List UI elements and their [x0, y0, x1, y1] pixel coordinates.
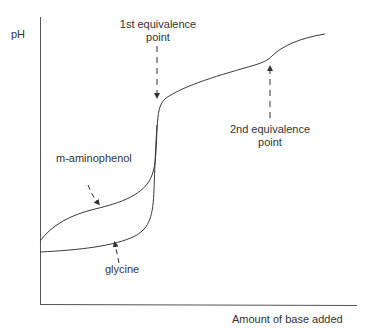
curve-upper-shared — [157, 34, 325, 130]
x-axis-label: Amount of base added — [232, 313, 343, 326]
glycine-arrow — [115, 244, 119, 263]
series-label-glycine: glycine — [105, 263, 139, 276]
titration-chart — [0, 0, 371, 330]
series-label-m-aminophenol: m-aminophenol — [56, 152, 132, 165]
m-aminophenol-arrow — [88, 185, 98, 203]
eq2-label: 2nd equivalence point — [228, 123, 312, 149]
curve-m-aminophenol — [40, 130, 157, 241]
eq1-label: 1st equivalence point — [118, 18, 198, 44]
eq2-label-line1: 2nd equivalence — [228, 123, 312, 136]
y-axis-label: pH — [11, 28, 25, 41]
eq1-label-line2: point — [118, 31, 198, 44]
eq2-label-line2: point — [228, 136, 312, 149]
curve-glycine — [40, 125, 157, 252]
eq1-label-line1: 1st equivalence — [118, 18, 198, 31]
x-axis — [40, 305, 357, 306]
